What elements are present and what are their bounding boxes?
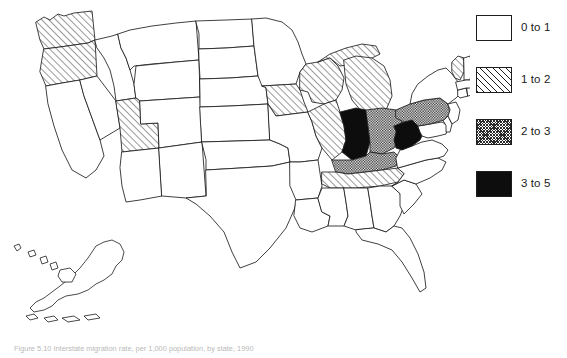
legend-item-0: 0 to 1 <box>476 14 550 42</box>
legend-label-3: 3 to 5 <box>521 178 550 190</box>
state-michigan-lp <box>344 56 392 116</box>
state-minnesota <box>252 18 306 86</box>
legend-swatch-check <box>476 119 512 145</box>
legend-label-2: 2 to 3 <box>521 126 550 138</box>
us-choropleth-map <box>0 0 470 330</box>
legend-item-1: 1 to 2 <box>476 66 550 94</box>
map-legend: 0 to 1 1 to 2 2 to 3 3 to 5 <box>476 14 564 204</box>
state-south-dakota <box>199 46 258 79</box>
legend-item-2: 2 to 3 <box>476 118 550 146</box>
legend-swatch-none <box>476 15 512 41</box>
state-north-dakota <box>196 19 254 49</box>
map-svg <box>0 0 470 330</box>
legend-item-3: 3 to 5 <box>476 170 550 198</box>
state-kansas <box>200 104 270 142</box>
legend-swatch-solid <box>476 171 512 197</box>
state-nebraska <box>200 76 268 107</box>
state-vermont <box>452 56 464 80</box>
legend-label-0: 0 to 1 <box>521 22 550 34</box>
state-new-mexico <box>159 142 206 198</box>
state-wyoming <box>134 60 200 101</box>
inset-alaska <box>26 240 124 322</box>
state-florida <box>356 226 426 292</box>
inset-hawaii <box>14 244 76 282</box>
state-arkansas <box>290 160 322 200</box>
legend-swatch-hatch <box>476 67 512 93</box>
figure-caption: Figure 5.10 Interstate migration rate, p… <box>14 345 444 354</box>
figure-root: 0 to 1 1 to 2 2 to 3 3 to 5 Figure 5.10 … <box>0 0 567 358</box>
state-wisconsin <box>300 58 344 104</box>
state-arizona <box>120 148 162 202</box>
state-new-hampshire <box>464 56 470 80</box>
legend-label-1: 1 to 2 <box>521 74 550 86</box>
